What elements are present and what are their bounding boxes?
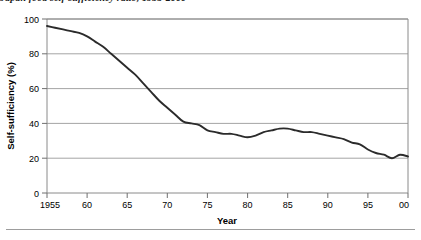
x-tick-label-1990: 90 [323,200,333,210]
x-axis-title: Year [217,215,237,226]
y-tick-label-60: 60 [29,84,39,94]
x-tick-label-1955: 1955 [40,200,60,210]
footer-rule [6,229,415,230]
line-chart: 100 80 60 40 20 0 1955 60 65 70 75 80 [0,0,421,240]
x-tick-label-1980: 80 [243,200,253,210]
x-tick-label-1960: 60 [82,200,92,210]
y-tick-label-0: 0 [34,189,39,199]
y-tick-label-20: 20 [29,154,39,164]
x-tick-label-2000: 00 [399,200,409,210]
x-axis-ticks [47,193,408,198]
y-tick-label-40: 40 [29,119,39,129]
y-tick-labels: 100 80 60 40 20 0 [24,15,39,199]
x-tick-label-1970: 70 [162,200,172,210]
x-tick-labels: 1955 60 65 70 75 80 85 90 95 00 [40,200,409,210]
data-series-line [47,26,408,158]
x-tick-label-1975: 75 [202,200,212,210]
figure-container: Japan food self-sufficiency ratio, 1955-… [0,0,421,240]
gridlines [47,19,408,158]
x-tick-label-1995: 95 [363,200,373,210]
y-axis-title: Self-sufficiency (%) [5,62,16,150]
y-tick-label-80: 80 [29,49,39,59]
x-tick-label-1965: 65 [122,200,132,210]
x-tick-label-1985: 85 [283,200,293,210]
y-axis-ticks [42,19,47,193]
y-tick-label-100: 100 [24,15,39,25]
